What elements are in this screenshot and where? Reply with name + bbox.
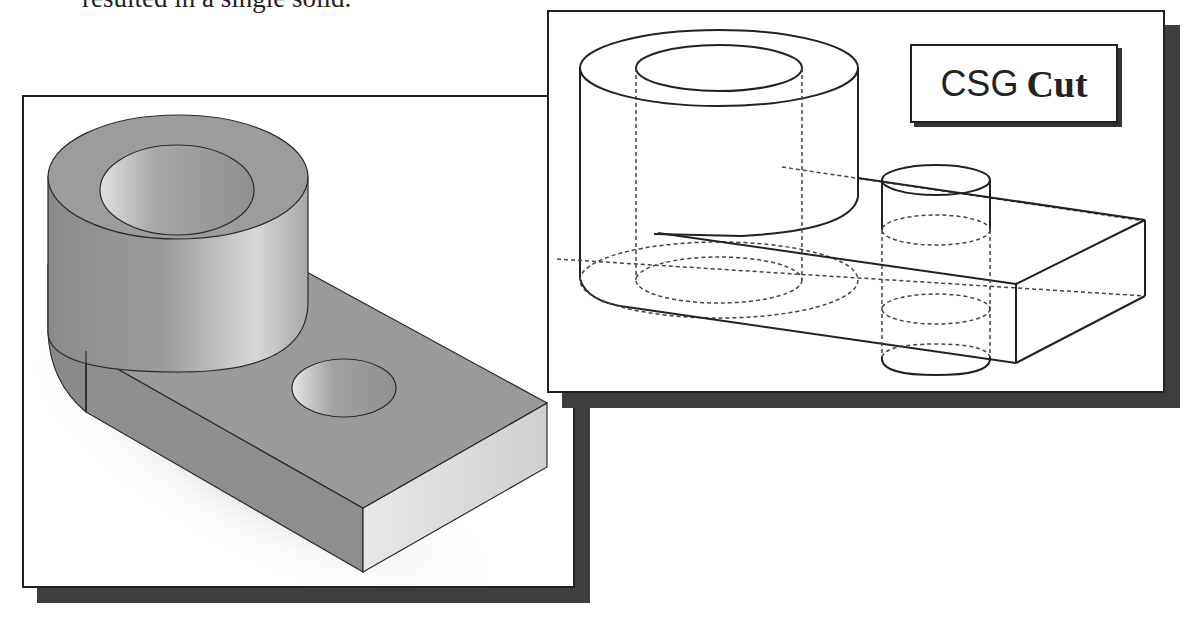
label-csg-text: CSG <box>940 63 1018 105</box>
cylinder-bore <box>100 145 254 235</box>
plate-hole <box>292 359 396 417</box>
csg-cut-label: CSG Cut <box>910 44 1118 123</box>
caption-text: resulted in a single solid. <box>82 0 351 14</box>
label-cut-text: Cut <box>1026 62 1087 106</box>
large-cylinder-bore-top <box>636 45 802 91</box>
block-top-back-edge <box>858 178 1145 220</box>
large-cylinder-top <box>580 30 858 106</box>
left-figure-panel <box>22 95 575 588</box>
shaded-solid-model <box>24 97 575 588</box>
right-figure-panel: CSG Cut <box>547 10 1165 393</box>
block-bottom-front-edge <box>627 307 1016 363</box>
